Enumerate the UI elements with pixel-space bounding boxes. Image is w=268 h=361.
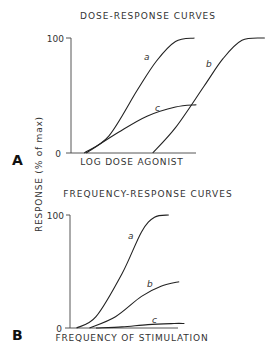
chart-b: FREQUENCY-RESPONSE CURVES 100 0 FREQUENC… <box>12 189 233 343</box>
chart-a-curve-label-c: c <box>155 103 160 113</box>
chart-b-curve-b <box>90 282 180 328</box>
chart-b-curve-c <box>96 323 184 328</box>
chart-a-curve-label-b: b <box>206 59 212 69</box>
chart-b-curve-label-c: c <box>152 315 157 325</box>
panel-label-a: A <box>12 152 23 168</box>
chart-a-title: DOSE-RESPONSE CURVES <box>80 11 216 21</box>
chart-b-title: FREQUENCY-RESPONSE CURVES <box>63 189 232 199</box>
chart-a-xlabel: LOG DOSE AGONIST <box>80 157 183 167</box>
chart-a-curve-b <box>153 38 265 153</box>
chart-a-ytick-label-100: 100 <box>47 34 64 44</box>
chart-a-curve-c <box>86 105 196 153</box>
shared-ylabel: RESPONSE (% of max) <box>34 116 44 232</box>
chart-b-curve-label-b: b <box>147 279 153 289</box>
panel-label-b: B <box>12 327 23 343</box>
chart-b-xlabel: FREQUENCY OF STIMULATION <box>56 333 209 343</box>
chart-b-curve-label-a: a <box>128 231 134 241</box>
chart-a-curve-a <box>84 38 194 153</box>
chart-a-ytick-label-0: 0 <box>55 149 61 159</box>
chart-a-curve-label-a: a <box>144 52 150 62</box>
chart-a: DOSE-RESPONSE CURVES 100 0 LOG DOSE AGON… <box>12 11 265 168</box>
figure: DOSE-RESPONSE CURVES 100 0 LOG DOSE AGON… <box>0 0 268 361</box>
chart-b-ytick-label-100: 100 <box>47 211 64 221</box>
